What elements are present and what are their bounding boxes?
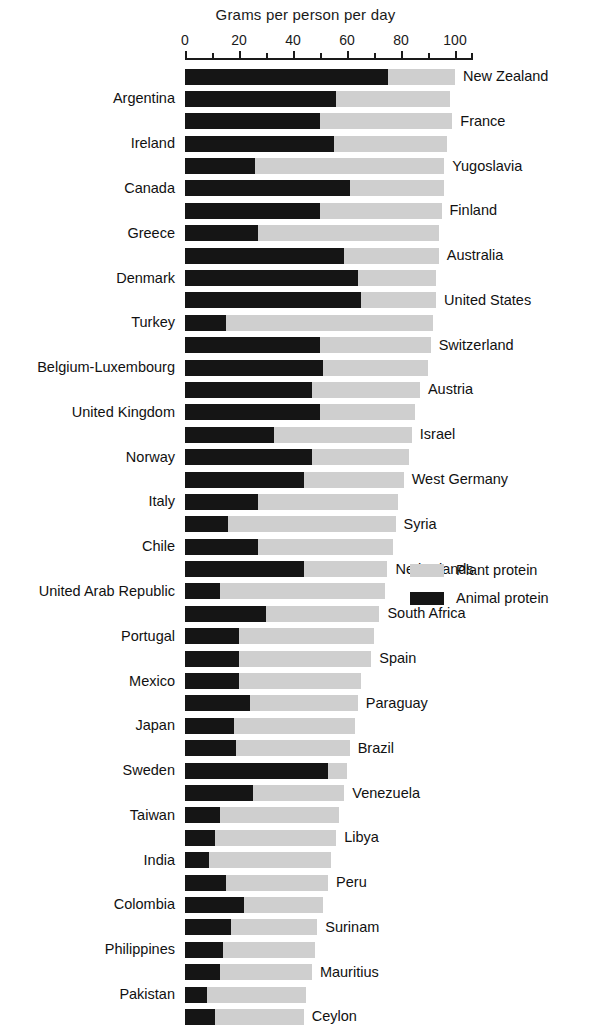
bar-segment-animal-protein	[185, 942, 223, 958]
chart-row: Ceylon	[0, 1007, 591, 1029]
bar-segment-animal-protein	[185, 785, 253, 801]
x-axis-tick	[455, 51, 457, 58]
stacked-bar	[185, 69, 455, 85]
row-label-left: Japan	[0, 716, 179, 735]
row-label-left: Chile	[0, 537, 179, 556]
bar-segment-plant-protein	[239, 651, 371, 667]
chart-row: Syria	[0, 515, 591, 537]
x-axis-minor-tick	[266, 53, 268, 58]
bar-segment-animal-protein	[185, 248, 344, 264]
chart-row: Libya	[0, 828, 591, 850]
row-label-right: Paraguay	[366, 694, 428, 713]
chart-row: United States	[0, 291, 591, 313]
row-label-right: Switzerland	[439, 336, 514, 355]
x-axis-tick-label: 0	[181, 32, 189, 48]
chart-row: Switzerland	[0, 336, 591, 358]
row-label-right: Syria	[404, 515, 437, 534]
row-label-left: Italy	[0, 492, 179, 511]
chart-row: Brazil	[0, 739, 591, 761]
legend-label: Plant protein	[456, 562, 537, 578]
x-axis-tick	[185, 51, 187, 58]
stacked-bar	[185, 1009, 304, 1025]
bar-segment-plant-protein	[266, 606, 379, 622]
row-label-left: Greece	[0, 224, 179, 243]
x-axis-tick-label: 80	[393, 32, 409, 48]
plot-area: New ZealandArgentinaFranceIrelandYugosla…	[0, 67, 591, 1029]
row-label-left: Norway	[0, 448, 179, 467]
chart-row: Spain	[0, 649, 591, 671]
stacked-bar	[185, 942, 315, 958]
chart-row: Ireland	[0, 134, 591, 156]
bar-segment-plant-protein	[320, 404, 415, 420]
stacked-bar	[185, 852, 331, 868]
row-label-left: Portugal	[0, 627, 179, 646]
chart-row: India	[0, 851, 591, 873]
stacked-bar	[185, 180, 444, 196]
stacked-bar	[185, 404, 415, 420]
stacked-bar	[185, 270, 436, 286]
stacked-bar	[185, 875, 328, 891]
bar-segment-animal-protein	[185, 740, 236, 756]
x-axis-minor-tick	[212, 53, 214, 58]
chart-row: Turkey	[0, 313, 591, 335]
legend-item: Animal protein	[410, 584, 549, 612]
chart-row: Colombia	[0, 895, 591, 917]
row-label-left: United Arab Republic	[0, 582, 179, 601]
bar-segment-plant-protein	[320, 203, 442, 219]
row-label-right: United States	[444, 291, 531, 310]
chart-row: Yugoslavia	[0, 157, 591, 179]
x-axis-minor-tick	[374, 53, 376, 58]
chart-row: Japan	[0, 716, 591, 738]
chart-row: Argentina	[0, 89, 591, 111]
legend-swatch-animal	[410, 592, 444, 605]
stacked-bar	[185, 785, 344, 801]
bar-segment-plant-protein	[215, 830, 337, 846]
bar-segment-plant-protein	[236, 740, 349, 756]
bar-segment-animal-protein	[185, 1009, 215, 1025]
stacked-bar	[185, 807, 339, 823]
x-axis-tick-label: 40	[285, 32, 301, 48]
bar-segment-animal-protein	[185, 292, 361, 308]
bar-segment-plant-protein	[228, 516, 395, 532]
bar-segment-animal-protein	[185, 852, 209, 868]
bar-segment-animal-protein	[185, 673, 239, 689]
stacked-bar	[185, 695, 358, 711]
bar-segment-animal-protein	[185, 897, 244, 913]
row-label-right: Venezuela	[352, 784, 420, 803]
bar-segment-plant-protein	[239, 628, 374, 644]
x-axis-tick	[347, 51, 349, 58]
stacked-bar	[185, 740, 350, 756]
bar-segment-plant-protein	[334, 136, 447, 152]
bar-segment-plant-protein	[323, 360, 428, 376]
row-label-left: Denmark	[0, 269, 179, 288]
bar-segment-plant-protein	[209, 852, 331, 868]
bar-segment-plant-protein	[320, 113, 452, 129]
row-label-right: West Germany	[412, 470, 508, 489]
chart-row: Belgium-Luxembourg	[0, 358, 591, 380]
stacked-bar	[185, 583, 385, 599]
chart-row: Denmark	[0, 269, 591, 291]
stacked-bar	[185, 606, 379, 622]
stacked-bar	[185, 360, 428, 376]
stacked-bar	[185, 292, 436, 308]
bar-segment-plant-protein	[244, 897, 322, 913]
chart-row: Portugal	[0, 627, 591, 649]
bar-segment-plant-protein	[253, 785, 345, 801]
bar-segment-animal-protein	[185, 91, 336, 107]
x-axis-tick-label: 20	[231, 32, 247, 48]
bar-segment-animal-protein	[185, 606, 266, 622]
bar-segment-animal-protein	[185, 203, 320, 219]
stacked-bar	[185, 763, 347, 779]
row-label-right: Spain	[379, 649, 416, 668]
bar-segment-plant-protein	[231, 919, 317, 935]
stacked-bar	[185, 136, 447, 152]
row-label-right: New Zealand	[463, 67, 548, 86]
bar-segment-animal-protein	[185, 583, 220, 599]
stacked-bar	[185, 449, 409, 465]
bar-segment-plant-protein	[350, 180, 445, 196]
chart-row: United Kingdom	[0, 403, 591, 425]
stacked-bar	[185, 919, 317, 935]
row-label-right: France	[460, 112, 505, 131]
stacked-bar	[185, 472, 404, 488]
stacked-bar	[185, 516, 396, 532]
